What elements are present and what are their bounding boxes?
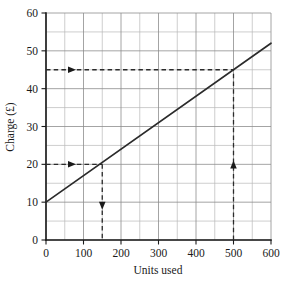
construction-lines (46, 66, 237, 240)
y-tick-label: 60 (27, 7, 39, 19)
y-tick-label: 30 (27, 121, 39, 133)
arrow-right-icon (68, 66, 76, 73)
y-tick-label: 50 (27, 45, 39, 57)
x-tick-label: 200 (112, 247, 130, 259)
y-tick-label: 0 (32, 234, 38, 246)
y-tick-label: 40 (27, 83, 39, 95)
charge-vs-units-chart: 0100200300400500600 0102030405060 Units … (0, 0, 289, 281)
chart-canvas: 0100200300400500600 0102030405060 Units … (0, 0, 289, 281)
x-tick-label: 600 (262, 247, 280, 259)
y-axis-title: Charge (£) (4, 102, 17, 151)
arrow-down-icon (99, 202, 106, 210)
x-tick-label: 500 (225, 247, 243, 259)
y-tick-labels: 0102030405060 (27, 7, 39, 246)
x-tick-label: 100 (75, 247, 93, 259)
x-tick-label: 400 (187, 247, 205, 259)
major-gridlines (46, 13, 271, 240)
x-tick-label: 0 (43, 247, 49, 259)
x-tick-labels: 0100200300400500600 (43, 247, 280, 259)
arrow-right-icon (68, 161, 76, 168)
x-tick-label: 300 (150, 247, 168, 259)
y-tick-label: 10 (27, 196, 39, 208)
tick-marks (42, 13, 272, 245)
x-axis-title: Units used (134, 264, 183, 276)
y-tick-label: 20 (27, 158, 39, 170)
